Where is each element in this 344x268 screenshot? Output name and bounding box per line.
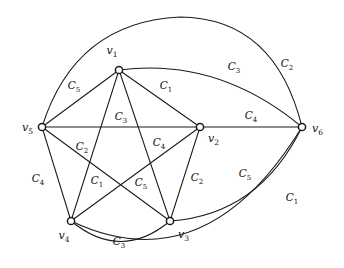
edge-label-v1-v2: C1	[160, 79, 173, 94]
graph-vertex-v4	[67, 217, 74, 224]
graph-vertex-v6	[298, 123, 305, 130]
edge-label-v2-v3: C2	[191, 171, 204, 186]
vertex-label-v2: v2	[208, 132, 219, 147]
edge-label-v2-v4: C5	[135, 176, 148, 191]
vertex-label-v5: v5	[22, 121, 33, 136]
vertex-dot-v6	[298, 123, 305, 130]
edge-label-v3-v4: C3	[113, 235, 126, 250]
edge-label-v2-v6: C4	[245, 109, 258, 124]
edge-label-v4-v5: C4	[32, 172, 45, 187]
graph-vertex-v5	[38, 123, 45, 130]
vertex-dot-v4	[67, 217, 74, 224]
edge-label-v1-v4: C1	[91, 174, 104, 189]
graph-edge-v1-v6	[119, 68, 302, 127]
edge-label-v4-v6: C1	[286, 191, 299, 206]
edges-layer	[42, 17, 302, 242]
graph-vertex-v1	[115, 66, 122, 73]
vertex-label-v6: v6	[312, 122, 323, 137]
vertex-label-v3: v3	[178, 228, 189, 243]
edge-label-v3-v5: C2	[76, 140, 89, 155]
edge-label-v1-v6: C3	[228, 60, 241, 75]
graph-vertex-v2	[196, 123, 203, 130]
edge-label-v3-v6: C5	[239, 167, 252, 182]
graph-edge-v3-v5	[42, 127, 170, 221]
vertex-label-v1: v1	[107, 44, 118, 59]
edge-label-v1-v5: C5	[68, 79, 81, 94]
edge-label-v2-v5: C3	[115, 110, 128, 125]
graph-edge-v5-v6	[42, 17, 302, 127]
vertex-dot-v3	[166, 217, 173, 224]
vertex-label-v4: v4	[59, 229, 70, 244]
edge-label-v5-v6: C2	[281, 57, 294, 72]
vertex-dot-v1	[115, 66, 122, 73]
vertex-dot-v2	[196, 123, 203, 130]
graph-edge-v4-v5	[42, 127, 71, 221]
graph-diagram-figure: C1C4C1C5C3C2C5C3C4C3C2C5C4C1C2 v1v2v3v4v…	[0, 0, 344, 268]
edge-label-v1-v3: C4	[153, 136, 166, 151]
graph-edge-v4-v6	[71, 127, 302, 239]
graph-vertex-v3	[166, 217, 173, 224]
vertex-dot-v5	[38, 123, 45, 130]
graph-canvas: C1C4C1C5C3C2C5C3C4C3C2C5C4C1C2 v1v2v3v4v…	[0, 0, 344, 268]
